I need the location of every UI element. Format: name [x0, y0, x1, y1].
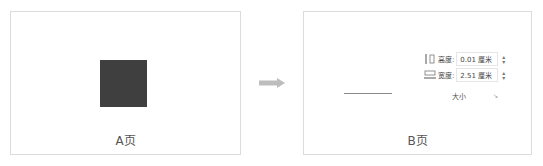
width-label: 宽度: [438, 70, 454, 80]
width-icon [424, 70, 436, 80]
line-shape [344, 93, 392, 94]
page-a-frame: A页 [10, 11, 241, 155]
page-b-caption: B页 [304, 131, 531, 148]
width-input[interactable]: 2.51 厘米 [456, 68, 498, 82]
height-label: 高度: [438, 54, 454, 64]
page-b-frame: 高度: 0.01 厘米 ▴▾ 宽度: 2.51 厘米 ▴▾ 大小 ↘ B页 [303, 11, 532, 155]
width-row: 宽度: 2.51 厘米 ▴▾ [424, 68, 505, 82]
right-arrow-icon [259, 78, 285, 88]
height-icon [424, 54, 436, 64]
height-row: 高度: 0.01 厘米 ▴▾ [424, 52, 505, 66]
square-shape [100, 60, 147, 107]
page-a-caption: A页 [11, 131, 240, 148]
height-input[interactable]: 0.01 厘米 [456, 52, 498, 66]
dialog-launcher-icon[interactable]: ↘ [493, 92, 498, 99]
width-spinner[interactable]: ▴▾ [502, 70, 505, 80]
height-spinner[interactable]: ▴▾ [502, 54, 505, 64]
size-group-label: 大小 [452, 91, 466, 101]
